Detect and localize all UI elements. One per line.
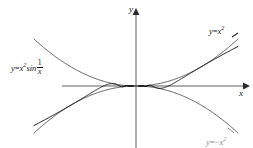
fraction-denominator: x — [37, 68, 43, 76]
oscillating-label-fraction: 1x — [37, 59, 43, 76]
oscillating-label-func: sin — [26, 63, 36, 73]
lower-envelope-label: y=−x2 — [206, 136, 226, 146]
x-axis-arrowhead — [243, 83, 250, 90]
lower-label-exponent: 2 — [223, 136, 226, 142]
upper-label-exponent: 2 — [221, 25, 224, 31]
y-axis-arrowhead — [133, 8, 140, 15]
squeeze-theorem-figure: y x y=x2sin1x y=x2 y=−x2 — [0, 0, 253, 148]
upper-label-leader — [232, 33, 238, 37]
oscillating-curve-label: y=x2sin1x — [11, 59, 43, 76]
label-leader-marks — [228, 33, 238, 133]
upper-envelope-label: y=x2 — [209, 25, 224, 35]
x-axis-label: x — [239, 89, 243, 98]
y-axis-label: y — [129, 5, 133, 14]
